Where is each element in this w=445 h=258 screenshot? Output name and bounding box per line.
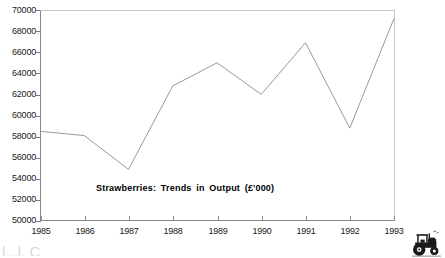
y-axis-label: 58000 (0, 132, 36, 141)
x-axis-tick (85, 216, 86, 221)
x-axis-tick (394, 216, 395, 221)
y-axis-label: 52000 (0, 195, 36, 204)
y-axis-label: 50000 (0, 216, 36, 225)
y-axis-label: 62000 (0, 90, 36, 99)
x-axis-tick (41, 216, 42, 221)
x-axis-label: 1989 (208, 226, 227, 236)
y-axis-label: 68000 (0, 27, 36, 36)
x-axis-label: 1992 (340, 226, 359, 236)
x-axis-tick (218, 216, 219, 221)
y-axis-tick (36, 221, 41, 222)
y-axis-label: 60000 (0, 111, 36, 120)
y-axis-label: 64000 (0, 69, 36, 78)
x-axis-label: 1991 (296, 226, 315, 236)
x-axis-tick (350, 216, 351, 221)
x-axis-label: 1993 (384, 226, 403, 236)
x-axis-label: 1985 (31, 226, 50, 236)
x-axis-labels: 1985 1986 1987 1988 1989 1990 1991 1992 … (0, 226, 445, 240)
x-axis-tick (306, 216, 307, 221)
chart-page: 70000 68000 66000 64000 62000 60000 5800… (0, 0, 445, 258)
y-axis-label: 56000 (0, 153, 36, 162)
x-axis-label: 1990 (252, 226, 271, 236)
y-axis-labels: 70000 68000 66000 64000 62000 60000 5800… (0, 0, 36, 258)
x-axis-tick (262, 216, 263, 221)
y-axis-label: 70000 (0, 6, 36, 15)
x-axis-label: 1986 (75, 226, 94, 236)
x-axis-label: 1987 (119, 226, 138, 236)
line-chart: 70000 68000 66000 64000 62000 60000 5800… (0, 0, 445, 258)
x-axis-tick (173, 216, 174, 221)
x-axis-tick (129, 216, 130, 221)
clipped-footer-text: l.,.l. C (2, 244, 40, 256)
tractor-icon (410, 230, 443, 257)
y-axis-label: 54000 (0, 174, 36, 183)
y-axis-label: 66000 (0, 48, 36, 57)
x-axis-label: 1988 (163, 226, 182, 236)
chart-title: Strawberries: Trends in Output (£'000) (96, 183, 274, 194)
